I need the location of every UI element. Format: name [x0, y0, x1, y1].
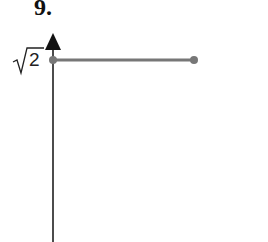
graph — [0, 0, 268, 242]
right-endpoint — [190, 56, 198, 64]
left-endpoint — [49, 56, 57, 64]
y-axis-arrow-icon — [45, 33, 61, 50]
